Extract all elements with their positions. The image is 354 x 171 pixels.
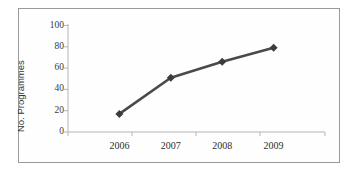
x-axis-tick-labels: 2006 2007 2008 2009 xyxy=(0,141,354,155)
x-tick-label-2006: 2006 xyxy=(99,141,139,151)
chart-figure: No. Programmes 100 80 60 40 20 0 xyxy=(0,0,354,171)
data-point-marker-2009 xyxy=(270,44,278,52)
x-tick-label-2009: 2009 xyxy=(254,141,294,151)
x-tick-label-2008: 2008 xyxy=(202,141,242,151)
data-line-series-1 xyxy=(119,48,273,114)
data-point-marker-2008 xyxy=(218,58,226,66)
x-tick-label-2007: 2007 xyxy=(151,141,191,151)
